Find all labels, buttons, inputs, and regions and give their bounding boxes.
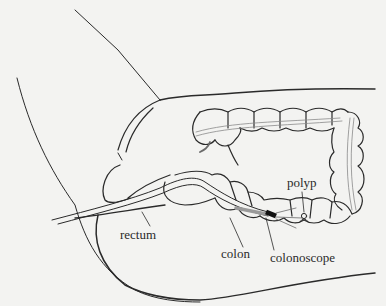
rectum — [75, 175, 170, 218]
label-colonoscope: colonoscope — [270, 251, 335, 264]
label-polyp: polyp — [287, 176, 317, 189]
transverse-colon — [193, 108, 348, 165]
sigmoid-colon — [164, 171, 352, 223]
colonoscopy-illustration: polyp rectum colon colonoscope — [0, 0, 386, 306]
label-colon: colon — [221, 247, 250, 260]
label-rectum: rectum — [120, 228, 156, 241]
descending-colon — [330, 112, 365, 214]
